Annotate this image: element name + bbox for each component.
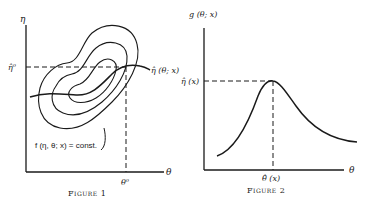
fig2-caption: Figure 2 <box>247 186 285 195</box>
fig1-contour-label: f (η, θ; x) = const. <box>35 141 97 150</box>
fig1-eta0-label: η̂⁰ <box>8 63 17 72</box>
fig2-g-curve <box>217 81 357 156</box>
figure-1: η θ η̂⁰ θ⁰ η̂ (θ; x) f (η, θ; x) = const… <box>8 14 179 198</box>
fig1-caption: Figure 1 <box>68 189 106 198</box>
fig1-contour-middle <box>52 42 127 114</box>
fig1-y-axis-label: η <box>20 14 26 24</box>
fig1-theta0-label: θ⁰ <box>121 178 130 187</box>
figures-canvas: η θ η̂⁰ θ⁰ η̂ (θ; x) f (η, θ; x) = const… <box>0 0 369 209</box>
fig1-eta-hat-curve <box>30 65 150 97</box>
figure-2: g (θ; x) θ η̂ (x) θ̂ (x) Figure 2 <box>181 10 357 195</box>
fig2-eta-hat-label: η̂ (x) <box>181 77 199 86</box>
fig1-eta-hat-curve-label: η̂ (θ; x) <box>151 66 179 75</box>
fig2-y-axis-label: g (θ; x) <box>189 10 217 19</box>
fig2-theta-hat-label: θ̂ (x) <box>262 174 280 183</box>
fig1-contour-pointer <box>101 128 105 150</box>
fig2-x-axis-label: θ <box>349 165 355 175</box>
fig1-x-axis-label: θ <box>166 167 172 177</box>
